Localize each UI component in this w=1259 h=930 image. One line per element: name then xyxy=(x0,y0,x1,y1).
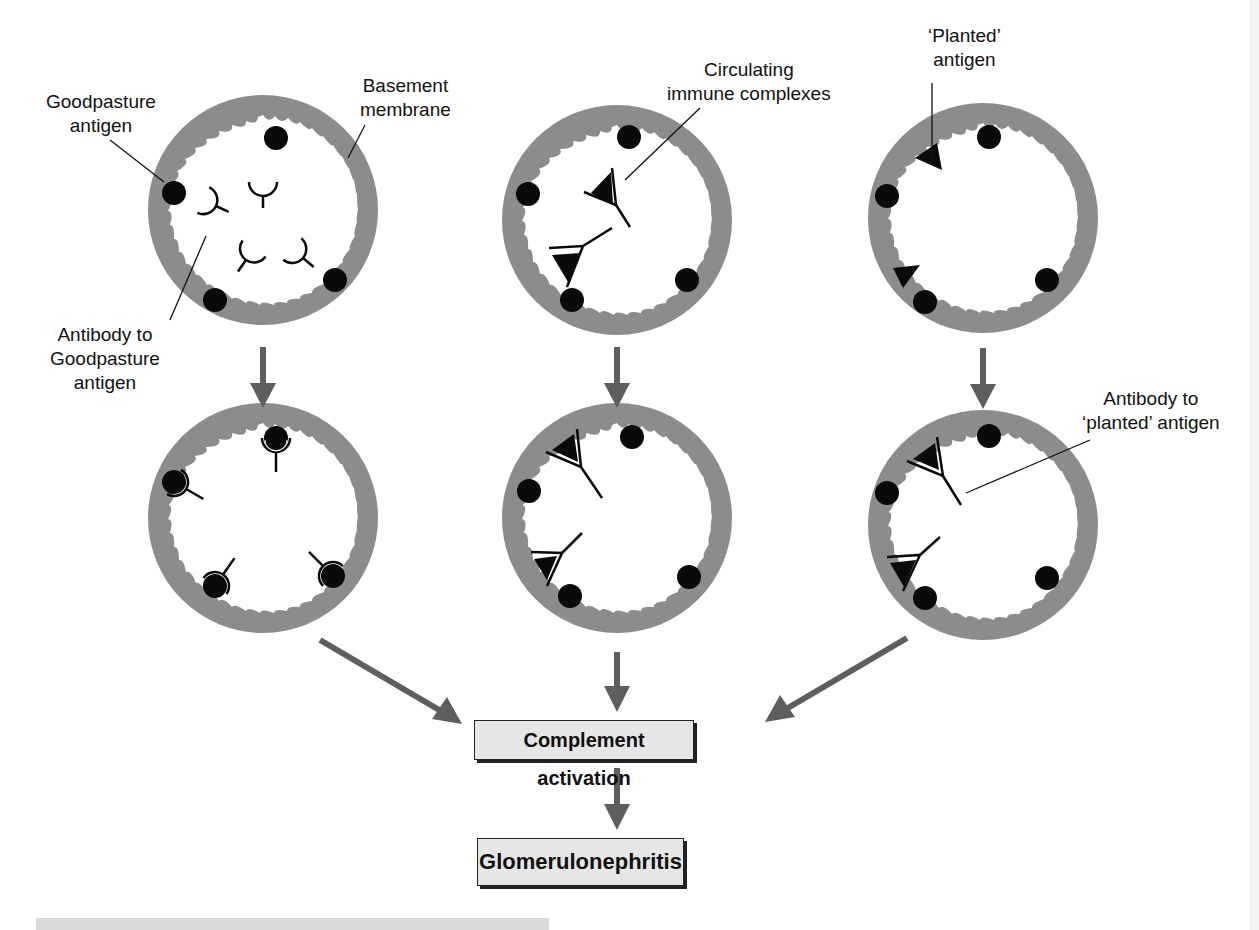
page-edge xyxy=(1250,0,1259,930)
label-basement-membrane: Basement membrane xyxy=(360,74,451,122)
label-circulating-immune-complexes: Circulating immune complexes xyxy=(667,58,831,106)
glomerulonephritis-box: Glomerulonephritis xyxy=(477,838,684,886)
complement-activation-box: Complement activation xyxy=(474,720,694,760)
label-antibody-to-goodpasture: Antibody to Goodpasture antigen xyxy=(50,323,160,395)
label-planted-antigen: ‘Planted’ antigen xyxy=(928,24,1001,72)
membrane-ring-goodpasture-bound xyxy=(148,403,378,633)
label-antibody-to-planted-antigen: Antibody to ‘planted’ antigen xyxy=(1082,387,1220,435)
glomerulonephritis-mechanism-diagram: Goodpasture antigen Basement membrane An… xyxy=(0,0,1259,930)
page-footer-bar xyxy=(36,918,549,930)
membrane-ring-circulating-complexes xyxy=(502,105,732,335)
label-goodpasture-antigen: Goodpasture antigen xyxy=(46,90,156,138)
membrane-ring-planted-antigen xyxy=(868,103,1098,333)
membrane-ring-planted-bound xyxy=(868,410,1098,640)
membrane-ring-complexes-deposited xyxy=(502,403,732,633)
